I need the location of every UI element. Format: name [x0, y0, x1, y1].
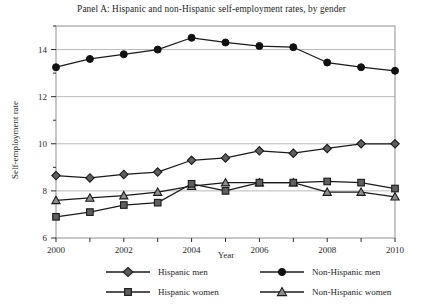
y-axis-ticks	[51, 26, 56, 238]
x-tick-label: 2000	[47, 245, 66, 255]
data-point-diamond	[357, 140, 365, 148]
y-tick-label: 14	[38, 45, 48, 55]
data-point-diamond	[120, 170, 128, 178]
data-point-square	[392, 185, 399, 192]
legend-row-2: Hispanic women Non-Hispanic women	[0, 282, 423, 302]
series-hispanic-men	[52, 140, 399, 183]
legend-label: Non-Hispanic women	[306, 287, 391, 297]
data-point-diamond	[323, 144, 331, 152]
legend-entry-hispanic-women: Hispanic women	[104, 282, 219, 302]
legend-entry-hispanic-men: Hispanic men	[104, 262, 208, 282]
legend-label: Hispanic women	[152, 287, 219, 297]
data-point-diamond	[154, 168, 162, 176]
data-point-circle	[256, 43, 263, 50]
data-point-diamond	[289, 149, 297, 157]
plot-border	[56, 26, 395, 238]
x-tick-label: 2002	[115, 245, 133, 255]
data-point-circle	[358, 64, 365, 71]
data-point-circle	[290, 44, 297, 51]
legend-label: Non-Hispanic men	[306, 267, 380, 277]
series-non-hispanic-men	[53, 34, 399, 74]
data-point-square	[358, 179, 365, 186]
series-line	[56, 181, 395, 216]
x-axis-ticks	[56, 238, 395, 242]
x-tick-label: 2010	[386, 245, 405, 255]
data-point-circle	[392, 67, 399, 74]
chart-legend: Hispanic men Non-Hispanic men Hispanic w…	[0, 262, 423, 306]
data-point-diamond	[221, 154, 229, 162]
data-point-square	[188, 181, 195, 188]
chart-plot-area: 68101214 200020022004200620082010 Self-e…	[0, 0, 423, 262]
data-point-circle	[53, 64, 60, 71]
data-series-group	[52, 34, 399, 220]
legend-marker-triangle-icon	[258, 285, 306, 299]
data-point-circle	[222, 39, 229, 46]
x-tick-label: 2008	[318, 245, 337, 255]
x-tick-label: 2006	[250, 245, 269, 255]
plot-frame	[56, 26, 395, 238]
legend-row-1: Hispanic men Non-Hispanic men	[0, 262, 423, 282]
data-point-circle	[154, 46, 161, 53]
data-point-diamond	[187, 156, 195, 164]
x-tick-label: 2004	[183, 245, 202, 255]
y-axis-tick-labels: 68101214	[38, 45, 48, 243]
legend-entry-non-hispanic-women: Non-Hispanic women	[258, 282, 391, 302]
data-point-diamond	[52, 171, 60, 179]
data-point-square	[324, 178, 331, 185]
data-point-diamond	[391, 140, 399, 148]
data-point-square	[121, 202, 128, 209]
data-point-square	[290, 179, 297, 186]
y-tick-label: 12	[38, 92, 47, 102]
data-point-square	[87, 209, 94, 216]
data-point-circle	[188, 34, 195, 41]
data-point-square	[256, 179, 263, 186]
data-point-circle	[120, 51, 127, 58]
y-axis-label: Self-employment rate	[10, 101, 20, 179]
legend-marker-square-icon	[104, 285, 152, 299]
y-tick-label: 6	[43, 233, 48, 243]
chart-figure: Panel A: Hispanic and non-Hispanic self-…	[0, 0, 423, 306]
legend-label: Hispanic men	[152, 267, 208, 277]
data-point-square	[154, 199, 161, 206]
x-axis-label: Year	[218, 250, 235, 260]
legend-marker-circle-icon	[258, 265, 306, 279]
gridlines	[56, 50, 395, 191]
data-point-square	[53, 214, 60, 221]
legend-entry-non-hispanic-men: Non-Hispanic men	[258, 262, 380, 282]
data-point-diamond	[255, 147, 263, 155]
data-point-circle	[324, 59, 331, 66]
y-tick-label: 8	[43, 186, 48, 196]
y-tick-label: 10	[38, 139, 48, 149]
data-point-circle	[86, 55, 93, 62]
data-point-diamond	[86, 174, 94, 182]
data-point-square	[222, 188, 229, 195]
legend-marker-diamond-icon	[104, 265, 152, 279]
